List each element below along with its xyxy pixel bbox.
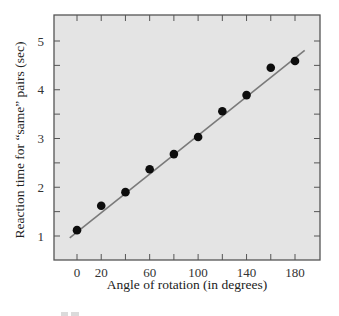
data-point (121, 188, 130, 197)
data-point (145, 165, 154, 174)
data-point (291, 57, 300, 66)
data-point (266, 64, 275, 73)
data-point (170, 150, 179, 159)
x-axis-title: Angle of rotation (in degrees) (107, 277, 267, 292)
x-tick-label: 180 (285, 265, 305, 280)
y-tick-label: 1 (38, 229, 45, 244)
cropped-fragment (61, 312, 79, 316)
x-tick-label: 0 (74, 265, 81, 280)
x-tick-label: 20 (95, 265, 108, 280)
y-tick-label: 5 (38, 34, 45, 49)
y-axis-tick-labels: 12345 (38, 34, 45, 244)
data-point (242, 91, 251, 100)
y-tick-label: 2 (38, 180, 45, 195)
data-point (194, 133, 203, 142)
plot-area (54, 15, 320, 260)
y-tick-label: 3 (38, 131, 45, 146)
data-point (218, 107, 227, 116)
y-tick-label: 4 (38, 82, 45, 97)
scatter-chart: 02060100140180 12345 Angle of rotation (… (0, 0, 339, 316)
y-axis-title: Reaction time for “same” pairs (sec) (12, 42, 27, 239)
data-point (73, 226, 82, 235)
data-point (97, 201, 106, 210)
